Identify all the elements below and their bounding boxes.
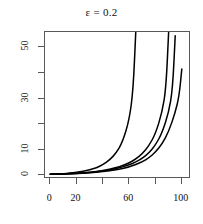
- curves-layer: [45, 32, 190, 178]
- y-tick: [38, 72, 44, 73]
- curve-3: [50, 36, 175, 174]
- curve-1: [50, 32, 136, 174]
- y-tick: [38, 46, 44, 47]
- y-tick-label: 30: [19, 87, 30, 107]
- x-tick: [49, 178, 50, 184]
- y-tick-label: 50: [19, 36, 30, 56]
- chart-title: ε = 0.2: [0, 6, 203, 18]
- chart-figure: ε = 0.2 0103050 02060100: [0, 0, 203, 224]
- x-tick-label: 20: [61, 192, 91, 203]
- y-tick-label: 0: [19, 164, 30, 184]
- x-tick: [102, 178, 103, 184]
- y-tick: [38, 98, 44, 99]
- x-tick-label: 100: [166, 192, 196, 203]
- x-tick: [181, 178, 182, 184]
- curve-4: [50, 69, 182, 174]
- y-tick-label: 10: [19, 138, 30, 158]
- y-tick: [38, 123, 44, 124]
- x-tick: [128, 178, 129, 184]
- x-tick: [155, 178, 156, 184]
- curve-2: [50, 32, 168, 174]
- y-tick: [38, 174, 44, 175]
- x-tick-label: 60: [113, 192, 143, 203]
- x-tick: [76, 178, 77, 184]
- y-tick: [38, 149, 44, 150]
- plot-area: [44, 31, 190, 178]
